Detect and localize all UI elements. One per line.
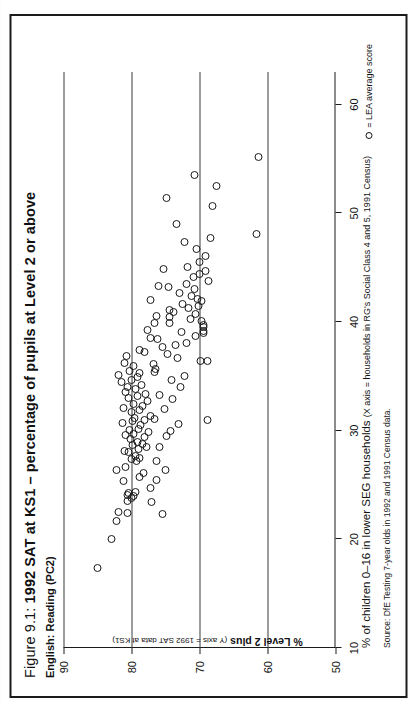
data-point	[154, 282, 162, 290]
data-point	[168, 395, 176, 403]
data-point	[133, 392, 141, 400]
x-axis-tick	[335, 430, 341, 431]
data-point	[204, 277, 212, 285]
x-axis-tick-label: 60	[347, 98, 359, 110]
data-point	[206, 234, 214, 242]
data-point	[131, 488, 139, 496]
data-point	[153, 335, 161, 343]
figure-title-text: 1992 SAT at KS1 – percentage of pupils a…	[21, 192, 37, 604]
data-point	[144, 428, 152, 436]
data-point	[165, 306, 173, 314]
data-point	[141, 390, 149, 398]
data-point	[162, 194, 170, 202]
data-point	[152, 457, 160, 465]
x-axis-tick	[335, 212, 341, 213]
data-point	[147, 498, 155, 506]
data-point	[171, 341, 179, 349]
rotated-figure-canvas: Figure 9.1: 1992 SAT at KS1 – percentage…	[0, 0, 419, 710]
data-point	[180, 238, 188, 246]
y-axis-title: % Level 2 plus (Y axis = 1992 SAT data a…	[112, 636, 302, 648]
data-point	[119, 477, 127, 485]
y-axis-tick-label: 70	[193, 661, 205, 673]
figure-page: Figure 9.1: 1992 SAT at KS1 – percentage…	[0, 0, 419, 710]
data-point	[121, 463, 129, 471]
figure-subtitle: English: Reading (PC2)	[43, 556, 55, 678]
data-point	[119, 404, 127, 412]
data-point	[167, 376, 175, 384]
data-point	[252, 230, 260, 238]
x-axis-tick-label: 50	[347, 207, 359, 219]
y-axis-tick	[335, 648, 336, 654]
data-point	[120, 447, 128, 455]
data-point	[164, 283, 172, 291]
data-point	[196, 357, 204, 365]
gridline	[267, 72, 268, 648]
y-axis-tick-label: 80	[125, 661, 137, 673]
y-axis-tick	[63, 648, 64, 654]
data-point	[107, 535, 115, 543]
data-point	[137, 381, 145, 389]
x-axis-line	[334, 72, 335, 648]
data-point	[212, 182, 220, 190]
data-point	[180, 372, 188, 380]
data-point	[120, 359, 128, 367]
data-point	[146, 334, 154, 342]
data-point	[146, 296, 154, 304]
data-point	[117, 378, 125, 386]
x-axis-title-note: (X axis = households in RG's Social Clas…	[361, 156, 371, 417]
x-axis-tick-label: 30	[347, 425, 359, 437]
data-point	[112, 517, 120, 525]
x-axis-tick-label: 10	[347, 642, 359, 654]
data-point	[125, 426, 133, 434]
scatter-plot-area: 1020304050605060708090	[63, 72, 335, 648]
data-point	[173, 354, 181, 362]
data-point	[208, 202, 216, 210]
x-axis-tick	[335, 538, 341, 539]
data-point	[112, 466, 120, 474]
data-point	[195, 258, 203, 266]
data-point	[124, 489, 132, 497]
data-point	[177, 328, 185, 336]
x-axis-tick-label: 20	[347, 533, 359, 545]
data-point	[150, 319, 158, 327]
data-point	[123, 509, 131, 517]
data-point	[174, 420, 182, 428]
data-point	[203, 416, 211, 424]
data-point	[172, 220, 180, 228]
data-point	[191, 332, 199, 340]
data-point	[93, 564, 101, 572]
data-point	[178, 300, 186, 308]
data-point	[161, 466, 169, 474]
data-point	[190, 171, 198, 179]
data-point	[201, 267, 209, 275]
data-point	[183, 263, 191, 271]
data-point	[152, 476, 160, 484]
circle-marker-icon	[365, 132, 372, 139]
data-point	[118, 419, 126, 427]
gridline	[131, 72, 132, 648]
data-point	[158, 510, 166, 518]
x-axis-tick	[335, 104, 341, 105]
y-axis-tick	[199, 648, 200, 654]
data-point	[159, 265, 167, 273]
x-axis-tick-label: 40	[347, 316, 359, 328]
y-axis-tick-label: 90	[57, 661, 69, 673]
y-axis-tick	[131, 648, 132, 654]
legend: = LEA average score	[363, 44, 373, 139]
data-point	[155, 391, 163, 399]
data-point	[160, 405, 168, 413]
data-point	[129, 362, 137, 370]
data-point	[182, 339, 190, 347]
data-point	[114, 508, 122, 516]
y-axis-tick	[267, 648, 268, 654]
data-point	[146, 484, 154, 492]
data-point	[150, 415, 158, 423]
data-point	[254, 153, 262, 161]
x-axis-title-main: % of children 0–16 in lower SEG househol…	[359, 420, 371, 648]
data-point	[143, 397, 151, 405]
data-point	[158, 343, 166, 351]
x-axis-tick	[335, 321, 341, 322]
x-axis-title: % of children 0–16 in lower SEG househol…	[359, 156, 371, 648]
data-point	[163, 350, 171, 358]
data-point	[192, 245, 200, 253]
